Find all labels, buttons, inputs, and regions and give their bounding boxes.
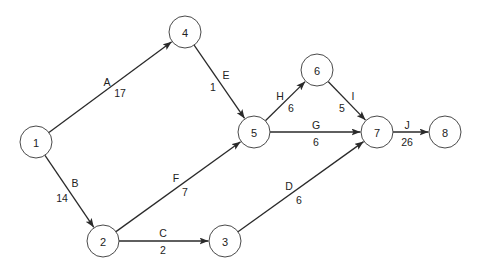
duration-label: 14 — [56, 192, 68, 204]
arrow-icon — [265, 82, 305, 121]
node-label: 3 — [222, 236, 228, 248]
activity-label: C — [159, 227, 167, 239]
duration-label: 26 — [401, 136, 413, 148]
node-7: 7 — [361, 116, 393, 148]
activity-label: A — [103, 76, 110, 88]
node-label: 7 — [374, 127, 380, 139]
arrow-icon — [238, 142, 364, 232]
duration-label: 17 — [114, 87, 126, 99]
node-label: 5 — [251, 127, 257, 139]
duration-label: 6 — [296, 194, 302, 206]
activity-label: E — [222, 69, 229, 81]
activity-label: D — [285, 180, 293, 192]
node-label: 8 — [442, 127, 448, 139]
duration-label: 2 — [160, 244, 166, 256]
network-diagram: 12345678 A17B14C2D6E1F7G6H6I5J26 — [0, 0, 479, 274]
activity-label: I — [352, 90, 355, 102]
duration-label: 6 — [313, 136, 319, 148]
node-8: 8 — [429, 116, 461, 148]
edge-activity-b — [45, 155, 94, 227]
node-label: 6 — [314, 65, 320, 77]
edge-activity-f — [116, 142, 241, 232]
activity-label: F — [173, 172, 179, 184]
arrow-icon — [328, 82, 365, 121]
edge-activity-e — [194, 45, 245, 118]
node-4: 4 — [169, 16, 201, 48]
node-label: 4 — [182, 27, 188, 39]
activity-label: G — [312, 119, 320, 131]
node-2: 2 — [87, 225, 119, 257]
arrow-icon — [116, 142, 241, 232]
duration-label: 1 — [210, 81, 216, 93]
duration-label: 7 — [182, 186, 188, 198]
activity-label: B — [71, 177, 78, 189]
node-label: 1 — [33, 137, 39, 149]
duration-label: 6 — [288, 102, 294, 114]
edge-activity-d — [238, 142, 364, 232]
node-label: 2 — [100, 236, 106, 248]
node-5: 5 — [238, 116, 270, 148]
arrow-icon — [194, 45, 245, 118]
edge-activity-i — [328, 82, 365, 121]
duration-label: 5 — [339, 102, 345, 114]
activity-label: J — [404, 119, 409, 131]
arrow-icon — [45, 155, 94, 227]
activity-label: H — [276, 90, 284, 102]
edge-activity-h — [265, 82, 305, 121]
node-6: 6 — [301, 54, 333, 86]
node-3: 3 — [209, 225, 241, 257]
nodes-layer: 12345678 — [20, 16, 461, 257]
node-1: 1 — [20, 126, 52, 158]
